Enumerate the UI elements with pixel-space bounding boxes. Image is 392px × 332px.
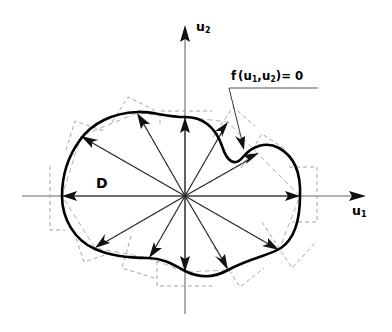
normal-arrow-240deg xyxy=(149,196,185,258)
boundary-label-sub-2: 2 xyxy=(270,75,275,84)
boundary-label-sub-1: 1 xyxy=(252,75,257,84)
figure-canvas: u2 u1 D f(u1,u2)=0 xyxy=(0,0,392,332)
normal-arrow-0deg xyxy=(185,191,300,201)
boundary-label-leader-group xyxy=(229,88,318,150)
boundary-label-u-second: u xyxy=(262,68,270,83)
axes-group xyxy=(22,25,366,314)
boundary-label-f: f xyxy=(231,68,236,83)
y-axis-label-text: u xyxy=(196,19,205,34)
normal-arrows-group xyxy=(62,113,300,272)
tangent-mark-120deg xyxy=(112,97,158,122)
normal-arrow-90deg xyxy=(180,117,190,196)
normal-arrow-330deg xyxy=(185,196,279,250)
x-axis-label-text: u xyxy=(352,203,361,218)
normal-arrow-180deg xyxy=(62,191,185,201)
region-label: D xyxy=(96,176,108,190)
y-axis-label-subscript: 2 xyxy=(205,26,211,35)
normal-arrow-60deg xyxy=(185,122,228,196)
tangent-mark-60deg xyxy=(213,107,255,137)
chord-polygon-group xyxy=(62,113,300,272)
y-axis-label: u2 xyxy=(196,21,211,34)
boundary-label-leader-line xyxy=(229,88,242,141)
normal-arrow-30deg xyxy=(185,153,259,196)
boundary-label-leader-arrowhead xyxy=(235,136,245,150)
normal-arrow-210deg xyxy=(95,196,185,248)
boundary-label-equals: = xyxy=(281,68,291,83)
x-axis-label-subscript: 1 xyxy=(361,210,367,219)
tangent-mark-300deg xyxy=(214,247,264,287)
normal-arrow-270deg xyxy=(180,196,190,272)
x-axis-label: u1 xyxy=(352,205,367,218)
radial-rays-group xyxy=(62,113,300,272)
normal-arrow-120deg xyxy=(137,113,185,196)
boundary-equation-label: f(u1,u2)=0 xyxy=(231,70,303,83)
normal-arrow-300deg xyxy=(185,196,228,270)
chord-polygon xyxy=(62,113,300,272)
boundary-label-zero: 0 xyxy=(291,68,303,83)
diagram-svg xyxy=(0,0,392,332)
